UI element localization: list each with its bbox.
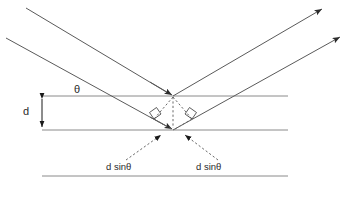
path-difference-label-right: d sinθ bbox=[196, 162, 221, 172]
incident-rays bbox=[6, 8, 172, 129]
reflected-ray-lower bbox=[173, 37, 340, 130]
incidence-angle-label: θ bbox=[74, 84, 80, 95]
leader-line-right bbox=[185, 135, 218, 160]
reflected-ray-upper bbox=[173, 9, 322, 96]
reflected-rays bbox=[173, 9, 340, 130]
bragg-diffraction-diagram: d θ d sinθ d sinθ bbox=[0, 0, 348, 204]
incident-ray-upper-arrow-seg bbox=[150, 82, 172, 95]
incident-ray-lower bbox=[6, 38, 168, 127]
lattice-planes bbox=[42, 96, 288, 176]
path-difference-construction bbox=[154, 97, 192, 129]
path-difference-label-left: d sinθ bbox=[106, 162, 131, 172]
incident-ray-lower-arrow-seg bbox=[150, 117, 172, 129]
interplanar-spacing-label: d bbox=[23, 106, 29, 117]
diagram-canvas bbox=[0, 0, 348, 204]
label-leader-lines bbox=[126, 135, 218, 160]
right-angle-markers bbox=[150, 108, 197, 120]
incident-ray-upper bbox=[26, 8, 168, 93]
leader-line-left bbox=[126, 135, 161, 160]
